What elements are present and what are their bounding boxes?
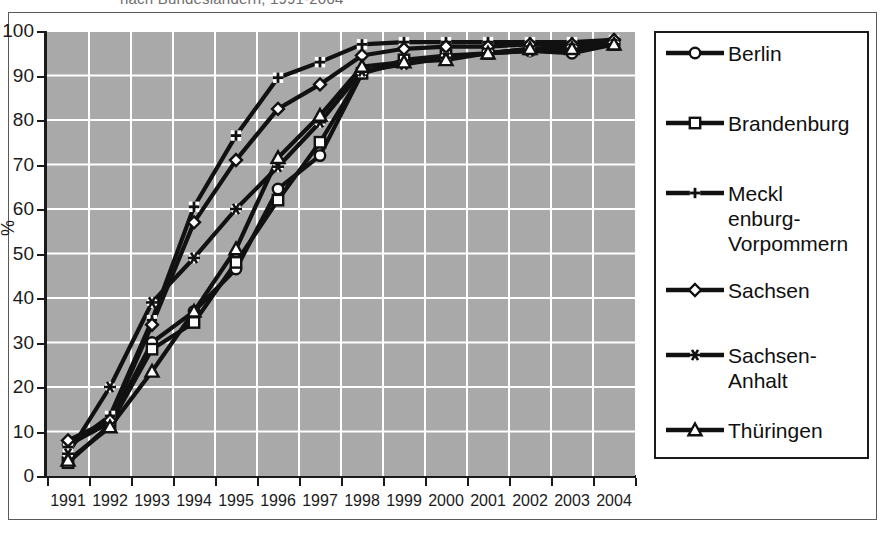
x-tick-mark	[635, 478, 637, 486]
legend-label: Brandenburg	[728, 111, 849, 136]
data-point-marker	[147, 344, 157, 354]
data-point-marker	[273, 73, 283, 83]
y-tick-mark	[37, 476, 44, 478]
data-point-marker	[315, 137, 325, 147]
x-tick-mark	[593, 478, 595, 486]
x-tick-mark	[299, 478, 301, 486]
y-tick-label: 20	[0, 377, 34, 396]
y-tick-label: 30	[0, 333, 34, 352]
y-tick-label: 70	[0, 155, 34, 174]
legend-item[interactable]: Berlin	[664, 41, 864, 66]
x-tick-mark	[215, 478, 217, 486]
data-point-marker	[315, 150, 325, 160]
legend-item[interactable]: Meckl enburg- Vorpommern	[664, 181, 864, 256]
plot-area	[47, 31, 635, 476]
y-tick-mark	[37, 31, 44, 33]
diamond-marker-icon	[664, 279, 726, 301]
x-tick-mark	[467, 478, 469, 486]
x-tick-mark	[131, 478, 133, 486]
x-tick-mark	[509, 478, 511, 486]
y-tick-mark	[37, 209, 44, 211]
series-lines	[47, 31, 635, 476]
y-tick-label: 60	[0, 199, 34, 218]
x-tick-mark	[551, 478, 553, 486]
x-tick-mark	[341, 478, 343, 486]
x-tick-label: 2000	[424, 492, 468, 510]
y-tick-mark	[37, 254, 44, 256]
y-tick-mark	[37, 343, 44, 345]
y-tick-mark	[37, 165, 44, 167]
x-tick-mark	[425, 478, 427, 486]
y-tick-label: 80	[0, 110, 34, 129]
y-tick-label: 0	[0, 466, 34, 485]
data-point-marker	[230, 243, 243, 255]
plot-background	[47, 31, 635, 476]
y-axis-labels: 0102030405060708090100	[0, 0, 34, 533]
x-tick-label: 1999	[382, 492, 426, 510]
data-point-marker	[189, 317, 199, 327]
legend-label: Berlin	[728, 41, 782, 66]
y-axis-title: %	[0, 220, 19, 236]
y-tick-label: 50	[0, 244, 34, 263]
x-tick-label: 1994	[172, 492, 216, 510]
x-tick-label: 1993	[130, 492, 174, 510]
y-tick-mark	[37, 76, 44, 78]
x-tick-mark	[257, 478, 259, 486]
legend-item[interactable]: Sachsen- Anhalt	[664, 343, 864, 393]
x-tick-mark	[173, 478, 175, 486]
legend-item[interactable]: Thüringen	[664, 418, 864, 443]
chart-legend: BerlinBrandenburgMeckl enburg- Vorpommer…	[654, 31, 869, 459]
data-point-marker	[189, 202, 199, 212]
data-point-marker	[315, 57, 325, 67]
square-marker-icon	[664, 112, 726, 134]
y-tick-mark	[37, 387, 44, 389]
y-tick-mark	[37, 120, 44, 122]
asterisk-marker-icon	[664, 344, 726, 366]
x-tick-label: 2001	[466, 492, 510, 510]
chart-title: nach Bundesländern, 1991-2004	[120, 0, 680, 7]
y-tick-label: 40	[0, 288, 34, 307]
x-tick-mark	[383, 478, 385, 486]
data-point-marker	[231, 257, 241, 267]
x-tick-label: 1996	[256, 492, 300, 510]
x-tick-mark	[47, 478, 49, 486]
y-tick-label: 100	[0, 21, 34, 40]
triangle-marker-icon	[664, 419, 726, 441]
y-tick-mark	[37, 298, 44, 300]
data-point-marker	[231, 130, 241, 140]
chart-figure: nach Bundesländern, 1991-2004 0102030405…	[0, 0, 885, 533]
data-point-marker	[273, 195, 283, 205]
legend-label: Sachsen- Anhalt	[728, 343, 817, 393]
x-tick-label: 2002	[508, 492, 552, 510]
x-tick-label: 1991	[46, 492, 90, 510]
x-tick-label: 1998	[340, 492, 384, 510]
x-tick-label: 1995	[214, 492, 258, 510]
x-tick-label: 2004	[592, 492, 636, 510]
y-tick-label: 90	[0, 66, 34, 85]
y-tick-label: 10	[0, 422, 34, 441]
legend-label: Sachsen	[728, 278, 810, 303]
legend-label: Thüringen	[728, 418, 823, 443]
plus-marker-icon	[664, 182, 726, 204]
x-tick-label: 1997	[298, 492, 342, 510]
y-tick-mark	[37, 432, 44, 434]
legend-label: Meckl enburg- Vorpommern	[728, 181, 848, 256]
data-point-marker	[356, 60, 369, 72]
circle-marker-icon	[664, 42, 726, 64]
x-tick-label: 2003	[550, 492, 594, 510]
legend-item[interactable]: Sachsen	[664, 278, 864, 303]
x-tick-mark	[89, 478, 91, 486]
x-tick-label: 1992	[88, 492, 132, 510]
data-point-marker	[273, 184, 283, 194]
legend-item[interactable]: Brandenburg	[664, 111, 864, 136]
